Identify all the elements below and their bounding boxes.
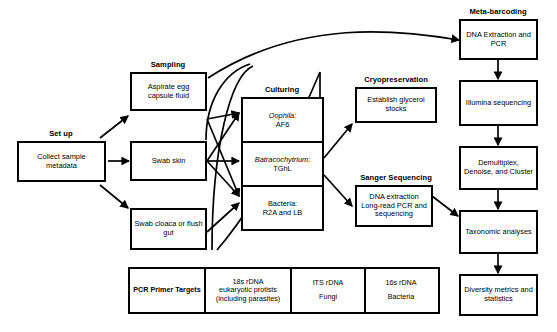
node-culture-batracochytrium: Batracochytrium: TGhL <box>243 141 322 185</box>
node-bacteria-media: R2A and LB <box>263 208 302 217</box>
table-cell-16s-target: Bacteria <box>385 293 416 302</box>
node-illumina-label: Illumina sequencing <box>466 99 531 108</box>
group-title-culturing: Culturing <box>240 86 324 94</box>
node-diversity-label: Diversity metrics and statistics <box>463 286 534 304</box>
node-sanger-label: DNA extraction Long-read PCR and sequenc… <box>359 193 429 220</box>
table-cell-its-target: Fungi <box>313 293 344 302</box>
group-title-meta-barcoding: Meta-barcoding <box>456 8 540 16</box>
node-swab-skin: Swab skin <box>130 141 207 181</box>
node-oophila-media: AF6 <box>276 120 290 129</box>
node-dna-extraction-and-pcr: DNA Extraction and PCR <box>459 19 538 60</box>
node-diversity-metrics: Diversity metrics and statistics <box>459 274 538 316</box>
edge-aspirate-to-bacteria <box>207 119 239 196</box>
node-batracochytrium-media: TGhL <box>273 164 291 173</box>
group-title-cryopreservation: Cryopreservation <box>352 76 440 84</box>
node-dna-extraction-label: DNA Extraction and PCR <box>463 31 534 49</box>
edge-curve-aspirate-to-meta <box>208 32 459 78</box>
node-establish-glycerol-stocks: Establish glycerol stocks <box>355 87 437 123</box>
node-aspirate-egg-capsule-fluid: Aspirate egg capsule fluid <box>130 72 207 111</box>
flowchart-diagram: Set up Collect sample metadata Sampling … <box>0 0 557 332</box>
edge-swabskin-to-bacteria <box>207 161 239 196</box>
group-title-setup: Set up <box>14 130 108 138</box>
node-sanger-dna-extraction: DNA extraction Long-read PCR and sequenc… <box>355 185 433 227</box>
node-swab-cloaca-label: Swab cloaca or flush gut <box>134 220 203 238</box>
edge-sanger-to-taxonomic <box>432 196 458 216</box>
node-illumina-sequencing: Illumina sequencing <box>459 80 538 126</box>
node-demultiplex-denoise-cluster: Demultiplex, Denoise, and Cluster <box>459 146 538 190</box>
edge-culturing-to-cryo <box>324 124 352 158</box>
node-swab-cloaca-or-flush-gut: Swab cloaca or flush gut <box>130 208 207 250</box>
edge-cloaca-to-bacteria <box>207 203 239 232</box>
node-aspirate-label: Aspirate egg capsule fluid <box>134 83 203 101</box>
edge-swabskin-to-oophila <box>207 113 239 161</box>
node-collect-sample-metadata-label: Collect sample metadata <box>21 153 102 171</box>
table-cell-its-marker: ITS rDNA <box>313 279 344 288</box>
table-header-pcr-primer-targets: PCR Primer Targets <box>130 269 204 312</box>
table-cell-18s: 18s rDNA eukaryotic protists (including … <box>204 269 290 312</box>
group-culturing: Oophila: AF6 Batracochytrium: TGhL Bacte… <box>241 97 324 231</box>
edge-culturing-to-sanger <box>324 175 352 206</box>
node-culture-oophila: Oophila: AF6 <box>243 99 322 141</box>
node-collect-sample-metadata: Collect sample metadata <box>17 141 106 182</box>
node-taxonomic-analyses: Taxonomic analyses <box>459 210 538 254</box>
group-title-sanger-sequencing: Sanger Sequencing <box>352 174 440 182</box>
edge-setup-to-cloaca <box>100 185 128 208</box>
table-cell-16s: 16s rDNA Bacteria <box>364 269 436 312</box>
table-cell-16s-marker: 16s rDNA <box>385 279 416 288</box>
node-glycerol-label: Establish glycerol stocks <box>359 96 433 114</box>
node-bacteria-label: Bacteria: <box>268 199 297 208</box>
node-swab-skin-label: Swab skin <box>152 157 186 166</box>
edge-aspirate-to-oophila <box>207 113 239 119</box>
node-taxonomic-label: Taxonomic analyses <box>465 228 532 237</box>
node-batracochytrium-label: Batracochytrium: <box>255 155 310 164</box>
pcr-primer-targets-table: PCR Primer Targets 18s rDNA eukaryotic p… <box>128 267 440 314</box>
group-title-sampling: Sampling <box>129 61 207 69</box>
table-cell-18s-target: eukaryotic protists (including parasites… <box>208 286 288 303</box>
table-cell-its: ITS rDNA Fungi <box>290 269 364 312</box>
node-culture-bacteria: Bacteria: R2A and LB <box>243 185 322 229</box>
node-demultiplex-label: Demultiplex, Denoise, and Cluster <box>463 159 534 177</box>
node-oophila-label: Oophila: <box>269 111 297 120</box>
